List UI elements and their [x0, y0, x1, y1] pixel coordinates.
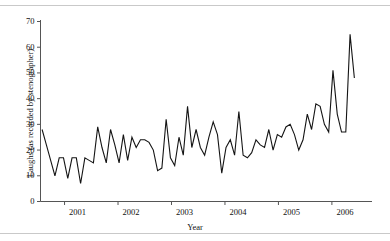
y-tick-marks — [37, 22, 41, 202]
x-tick-label: 2001 — [58, 208, 98, 217]
chart-figure: 010203040506070 200120022003200420052006… — [0, 0, 390, 241]
y-axis-title: Laughs (as recorded by stenographer) — [25, 23, 35, 203]
x-axis-title: Year — [0, 222, 390, 232]
x-tick-marks — [65, 202, 332, 206]
line-chart-plot — [0, 0, 390, 241]
x-tick-label: 2006 — [325, 208, 365, 217]
data-line-laughs — [42, 34, 354, 183]
x-tick-label: 2005 — [271, 208, 311, 217]
x-tick-label: 2004 — [218, 208, 258, 217]
x-tick-label: 2003 — [164, 208, 204, 217]
x-tick-label: 2002 — [111, 208, 151, 217]
